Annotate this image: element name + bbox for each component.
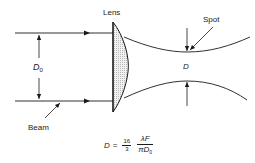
lens-shape [113, 22, 128, 112]
spot-size-formula: D = 16 3 λF πD0 [104, 133, 153, 157]
coef-numerator: 16 [122, 138, 131, 144]
fraction-denominator: πD0 [137, 146, 153, 155]
coef-denominator: 3 [124, 146, 129, 152]
formula-coefficient: 16 3 [122, 138, 131, 153]
lens-label: Lens [103, 9, 120, 17]
denominator-symbol: πD [138, 145, 149, 154]
spot-diameter-label: D [183, 63, 189, 71]
lens-focusing-diagram: Lens Spot Beam D0 D D = 16 3 λF πD0 [0, 0, 255, 163]
spot-label: Spot [203, 16, 219, 24]
fraction-numerator: λF [140, 135, 151, 143]
spot-pointer-arrow-icon [190, 27, 213, 50]
coef-fraction-bar [122, 145, 131, 146]
beam-diameter-label: D0 [33, 63, 43, 73]
top-ray-arrow-icon [84, 31, 90, 36]
formula-equals: = [113, 141, 118, 150]
lower-envelope [124, 81, 247, 100]
formula-main-fraction: λF πD0 [137, 135, 153, 155]
beam-pointer-arrow-icon [45, 103, 60, 118]
beam-diameter-subscript: 0 [40, 67, 43, 73]
beam-label: Beam [28, 124, 49, 132]
incoming-beam [15, 31, 113, 104]
denominator-subscript: 0 [149, 149, 152, 155]
formula-lhs: D [104, 141, 110, 150]
spot-indicators [187, 27, 213, 106]
bottom-ray-arrow-icon [84, 99, 90, 104]
